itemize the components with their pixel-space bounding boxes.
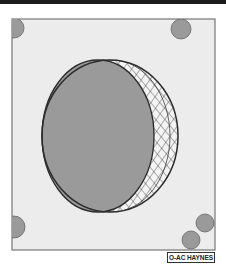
lens-diagram xyxy=(0,0,226,272)
dot-top-right xyxy=(171,19,191,39)
dot-top-left xyxy=(4,18,24,38)
dot-bottom-right-upper xyxy=(196,214,214,232)
dot-bottom-left xyxy=(3,216,25,238)
inner-disc xyxy=(42,60,154,212)
credit-label: O-AC HAYNES xyxy=(167,252,215,263)
dot-bottom-right-lower xyxy=(182,231,200,249)
